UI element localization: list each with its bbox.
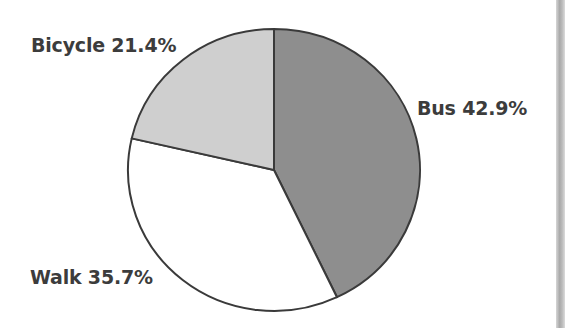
label-bicycle: Bicycle 21.4% — [31, 34, 176, 56]
page-edge-divider — [556, 0, 565, 328]
label-bus: Bus 42.9% — [417, 97, 527, 119]
pie-slices — [128, 29, 420, 311]
label-walk: Walk 35.7% — [30, 266, 153, 288]
